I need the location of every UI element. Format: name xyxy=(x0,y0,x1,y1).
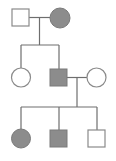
individual-II-3-unaffected-female xyxy=(87,68,106,87)
individual-III-3-unaffected-male xyxy=(88,130,105,147)
individual-II-1-unaffected-female xyxy=(12,68,31,87)
pedigree-chart xyxy=(0,0,116,161)
individual-I-2-affected-female xyxy=(50,8,70,28)
individual-II-2-affected-male xyxy=(50,69,67,86)
individual-I-1-unaffected-male xyxy=(12,9,29,26)
individual-III-1-affected-female xyxy=(12,129,31,148)
individual-III-2-affected-male xyxy=(50,130,67,147)
